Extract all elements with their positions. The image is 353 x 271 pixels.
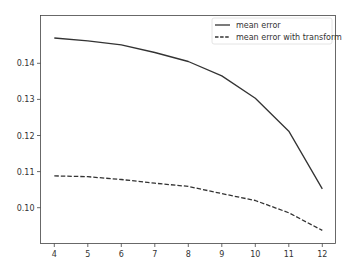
x-tick-label: 5 <box>85 250 90 259</box>
legend-label: mean error with transform <box>236 33 342 42</box>
x-tick-label: 6 <box>119 250 124 259</box>
x-tick-label: 8 <box>186 250 191 259</box>
y-axis: 0.100.110.120.130.14 <box>17 59 41 212</box>
x-tick-label: 11 <box>284 250 294 259</box>
x-tick-label: 4 <box>52 250 57 259</box>
y-tick-label: 0.13 <box>17 95 35 104</box>
y-tick-label: 0.14 <box>17 59 35 68</box>
x-tick-label: 10 <box>250 250 260 259</box>
y-tick-label: 0.12 <box>17 132 35 141</box>
y-tick-label: 0.11 <box>17 168 35 177</box>
legend-label: mean error <box>236 21 281 30</box>
y-tick-label: 0.10 <box>17 204 35 213</box>
x-tick-label: 7 <box>152 250 157 259</box>
line-chart: 456789101112 0.100.110.120.130.14 mean e… <box>0 0 353 271</box>
plot-frame <box>41 16 336 244</box>
x-tick-label: 9 <box>219 250 224 259</box>
x-tick-label: 12 <box>317 250 327 259</box>
legend: mean errormean error with transform <box>212 18 342 44</box>
plot-area <box>41 16 336 244</box>
x-axis: 456789101112 <box>52 244 328 259</box>
